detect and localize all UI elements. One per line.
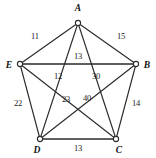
edge-weight-a-e: 11 bbox=[31, 32, 39, 41]
graph-vertex-d bbox=[37, 136, 42, 141]
graph-vertex-c bbox=[113, 136, 118, 141]
edge-weight-b-d: 40 bbox=[83, 94, 91, 103]
edge-weight-e-c: 23 bbox=[62, 95, 70, 104]
vertex-label-c: C bbox=[116, 146, 122, 156]
graph-edge-a-d bbox=[40, 23, 78, 139]
edge-weight-a-c: 30 bbox=[92, 72, 100, 81]
vertex-label-b: B bbox=[144, 61, 150, 71]
edge-weight-b-c: 14 bbox=[132, 99, 140, 108]
edge-weight-a-d: 12 bbox=[54, 72, 62, 81]
edge-weight-e-b: 13 bbox=[74, 52, 82, 61]
vertex-label-e: E bbox=[6, 61, 12, 71]
graph-edge-a-b bbox=[78, 23, 136, 64]
graph-edge-e-d bbox=[20, 64, 40, 139]
graph-vertex-b bbox=[133, 61, 138, 66]
edge-weight-d-c: 13 bbox=[74, 144, 82, 153]
graph-edge-a-c bbox=[78, 23, 116, 139]
graph-vertex-e bbox=[17, 61, 22, 66]
graph-figure: 11151312302340221413 ABCDE bbox=[0, 0, 156, 158]
edge-weight-a-b: 15 bbox=[117, 32, 125, 41]
graph-edge-a-e bbox=[20, 23, 78, 64]
edge-weight-e-d: 22 bbox=[14, 99, 22, 108]
graph-canvas bbox=[0, 0, 156, 158]
vertex-label-a: A bbox=[75, 4, 81, 14]
vertex-label-d: D bbox=[34, 146, 41, 156]
graph-vertex-a bbox=[75, 20, 80, 25]
